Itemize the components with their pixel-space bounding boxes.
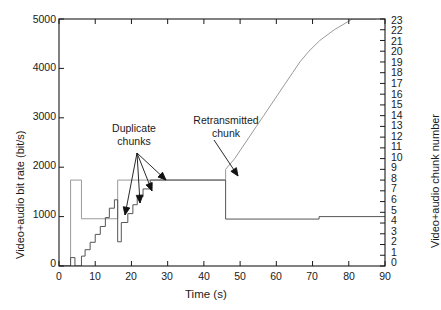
y-axis-ticks bbox=[59, 19, 64, 266]
y2-axis-ticks bbox=[380, 19, 385, 266]
plot-frame bbox=[59, 19, 385, 266]
series-chunk-number-line bbox=[59, 19, 376, 266]
x-axis-ticks bbox=[59, 261, 385, 266]
series-bitrate-line bbox=[59, 180, 385, 266]
annotation-arrows bbox=[123, 140, 238, 215]
x-axis-ticks-top bbox=[59, 19, 385, 24]
